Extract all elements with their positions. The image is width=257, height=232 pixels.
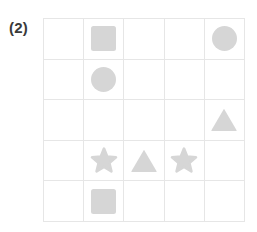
grid-cell-r1c4[interactable] xyxy=(165,19,205,60)
grid-cell-r4c2[interactable] xyxy=(84,141,124,182)
square-icon xyxy=(91,189,116,214)
triangle-icon xyxy=(211,108,237,131)
grid-cell-r3c5[interactable] xyxy=(205,100,245,141)
grid-cell-r2c5[interactable] xyxy=(205,60,245,101)
circle-icon xyxy=(91,67,116,92)
grid-cell-r4c1[interactable] xyxy=(44,141,84,182)
grid-cell-r3c2[interactable] xyxy=(84,100,124,141)
grid-cell-r3c4[interactable] xyxy=(165,100,205,141)
grid-cell-r1c5[interactable] xyxy=(205,19,245,60)
triangle-icon xyxy=(131,149,157,172)
figure-label: (2) xyxy=(9,20,28,35)
grid-cell-r5c2[interactable] xyxy=(84,181,124,222)
grid-cell-r5c1[interactable] xyxy=(44,181,84,222)
circle-icon xyxy=(212,26,237,51)
star-icon xyxy=(91,148,117,173)
grid-cell-r2c3[interactable] xyxy=(124,60,164,101)
grid-cell-r3c1[interactable] xyxy=(44,100,84,141)
grid-cell-r5c4[interactable] xyxy=(165,181,205,222)
grid-cell-r4c5[interactable] xyxy=(205,141,245,182)
star-icon xyxy=(171,148,197,173)
grid-cell-r4c4[interactable] xyxy=(165,141,205,182)
grid-cell-r3c3[interactable] xyxy=(124,100,164,141)
grid-cell-r1c3[interactable] xyxy=(124,19,164,60)
shape-grid xyxy=(43,18,245,222)
grid-cell-r1c1[interactable] xyxy=(44,19,84,60)
grid-cell-r2c2[interactable] xyxy=(84,60,124,101)
square-icon xyxy=(91,26,116,51)
grid-cell-r2c1[interactable] xyxy=(44,60,84,101)
grid-cell-r5c3[interactable] xyxy=(124,181,164,222)
puzzle-figure: (2) xyxy=(0,0,257,232)
grid-cell-r5c5[interactable] xyxy=(205,181,245,222)
grid-cell-r1c2[interactable] xyxy=(84,19,124,60)
grid-cell-r2c4[interactable] xyxy=(165,60,205,101)
grid-cell-r4c3[interactable] xyxy=(124,141,164,182)
